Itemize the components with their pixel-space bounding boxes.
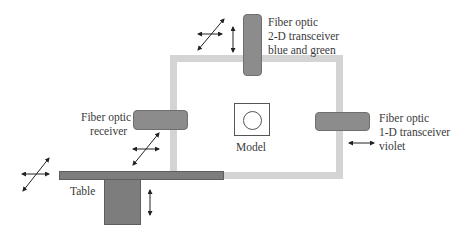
left-2d-motion-icon — [133, 133, 159, 165]
top-2d-motion-icon — [198, 19, 224, 50]
motion-arrows — [0, 0, 467, 241]
table-2d-motion-icon — [22, 158, 49, 191]
